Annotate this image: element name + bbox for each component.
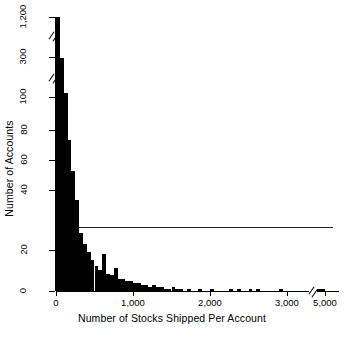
y-tick-label-7: 0 — [0, 285, 46, 297]
histogram-bar — [249, 289, 253, 291]
y-tick-label-5: 40 — [0, 184, 46, 196]
histogram-bar — [279, 289, 283, 291]
y-tick-label-4: 60 — [0, 154, 46, 166]
y-tick-2 — [49, 97, 55, 98]
y-tick-1 — [49, 57, 55, 58]
y-tick-5 — [49, 190, 55, 191]
x-axis-title: Number of Stocks Shipped Per Account — [0, 312, 344, 324]
histogram-bar — [256, 289, 260, 291]
histogram-bar — [317, 289, 325, 291]
x-tick-2 — [210, 291, 211, 296]
y-tick-label-3: 80 — [0, 124, 46, 136]
x-tick-0 — [56, 291, 57, 296]
x-tick-label-2: 2,000 — [198, 297, 222, 308]
x-tick-label-0: 0 — [53, 297, 58, 308]
histogram-figure: Number of Accounts Number of Stocks Ship… — [0, 0, 344, 337]
y-tick-label-0: 1,200 — [0, 11, 46, 23]
histogram-bar — [237, 289, 241, 291]
x-tick-3 — [287, 291, 288, 296]
x-tick-label-4: 5,000 — [313, 297, 337, 308]
x-tick-label-3: 3,000 — [275, 297, 299, 308]
y-tick-3 — [49, 130, 55, 131]
x-tick-1 — [133, 291, 134, 296]
histogram-bar — [229, 289, 233, 291]
x-tick-4 — [325, 291, 326, 296]
y-tick-label-1: 300 — [0, 51, 46, 63]
histogram-bar — [187, 289, 191, 291]
y-tick-6 — [49, 250, 55, 251]
y-tick-label-6: 20 — [0, 244, 46, 256]
histogram-bar — [179, 289, 183, 291]
histogram-bar — [210, 289, 214, 291]
y-tick-7 — [49, 291, 55, 292]
x-axis-line-tail — [317, 291, 339, 292]
y-tick-label-2: 100 — [0, 91, 46, 103]
plot-area — [56, 17, 339, 291]
y-tick-0 — [49, 17, 55, 18]
y-tick-4 — [49, 160, 55, 161]
histogram-bar — [198, 289, 202, 291]
reference-line — [56, 227, 333, 228]
x-tick-label-1: 1,000 — [121, 297, 145, 308]
x-axis-line — [56, 291, 309, 292]
